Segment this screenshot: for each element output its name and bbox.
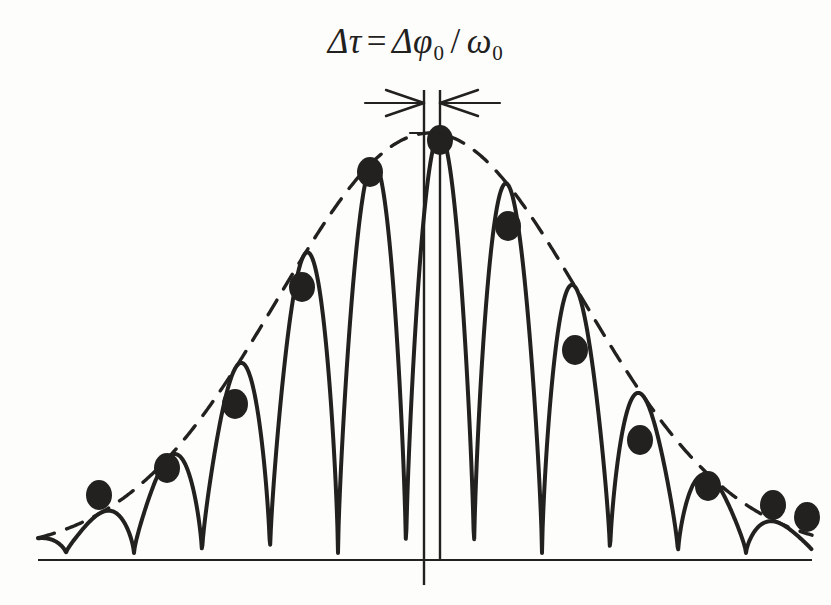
peak-marker <box>222 389 248 419</box>
peak-marker <box>695 471 721 501</box>
peak-marker <box>427 125 453 155</box>
delta-tau-dimension-arrows <box>365 90 500 133</box>
arrowhead-left-upper <box>386 90 424 103</box>
peak-marker <box>794 502 820 532</box>
arrowhead-right-upper <box>440 90 478 103</box>
peak-marker <box>289 272 315 302</box>
peak-marker <box>86 480 112 510</box>
peak-marker <box>154 453 180 483</box>
waveform-figure: Δτ=Δφ0/ω0 <box>0 0 831 605</box>
peak-marker <box>357 157 383 187</box>
peak-marker <box>627 425 653 455</box>
peak-marker <box>760 490 786 520</box>
peak-marker <box>562 335 588 365</box>
peak-marker <box>495 211 521 241</box>
plot-canvas <box>0 0 831 605</box>
arrowhead-right-lower <box>440 103 478 116</box>
arrowhead-left-lower <box>386 103 424 116</box>
